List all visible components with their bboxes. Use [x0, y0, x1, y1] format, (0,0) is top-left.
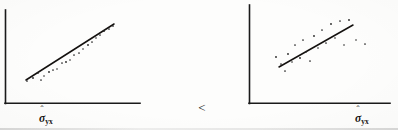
relation-less-than: <	[186, 100, 218, 116]
less-than-glyph: <	[198, 100, 205, 115]
subscript-yx: yx	[361, 117, 369, 126]
hat-accent-icon: ˆ	[40, 105, 43, 114]
right-plot-panel: ˆσyx	[240, 0, 398, 130]
hat-accent-icon: ˆ	[356, 105, 359, 114]
scan-bottom-edge	[0, 128, 398, 130]
right-scatter-points	[275, 19, 366, 72]
right-plot-canvas	[240, 0, 398, 112]
sigma-hat-symbol: ˆσ	[355, 112, 361, 124]
left-scatter-points	[26, 25, 114, 82]
left-plot-panel: ˆσyx	[0, 0, 160, 130]
left-plot-canvas	[0, 0, 160, 112]
left-regression-line	[26, 24, 114, 80]
sigma-hat-symbol: ˆσ	[39, 112, 45, 124]
right-regression-line	[279, 25, 353, 67]
comparison-figure: ˆσyx <	[0, 0, 398, 130]
left-x-axis-label: ˆσyx	[0, 112, 126, 126]
subscript-yx: yx	[45, 117, 53, 126]
right-x-axis-label: ˆσyx	[282, 112, 398, 126]
